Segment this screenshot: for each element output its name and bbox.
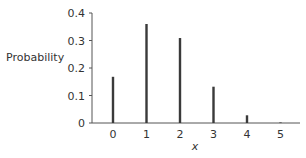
probability-chart: 00.10.20.30.4 012345 Probability x bbox=[0, 0, 306, 158]
x-tick-label: 5 bbox=[277, 128, 284, 141]
bar bbox=[145, 24, 147, 123]
x-axis-label: x bbox=[191, 140, 199, 153]
bar bbox=[212, 87, 214, 123]
y-axis-label: Probability bbox=[6, 51, 65, 64]
x-tick-label: 1 bbox=[143, 128, 150, 141]
x-axis: 012345 bbox=[92, 123, 300, 141]
bar bbox=[246, 115, 248, 123]
y-axis: 00.10.20.30.4 bbox=[68, 7, 93, 130]
x-tick-label: 0 bbox=[110, 128, 117, 141]
y-tick-label: 0.1 bbox=[68, 90, 86, 103]
y-tick-label: 0.4 bbox=[68, 7, 86, 20]
y-tick-label: 0.2 bbox=[68, 62, 86, 75]
y-tick-label: 0.3 bbox=[68, 35, 86, 48]
bars bbox=[112, 24, 282, 123]
x-tick-label: 2 bbox=[177, 128, 184, 141]
x-tick-label: 4 bbox=[244, 128, 251, 141]
y-tick-label: 0 bbox=[78, 117, 85, 130]
bar bbox=[112, 77, 114, 123]
x-tick-label: 3 bbox=[210, 128, 217, 141]
bar bbox=[279, 122, 281, 123]
bar bbox=[179, 38, 181, 123]
